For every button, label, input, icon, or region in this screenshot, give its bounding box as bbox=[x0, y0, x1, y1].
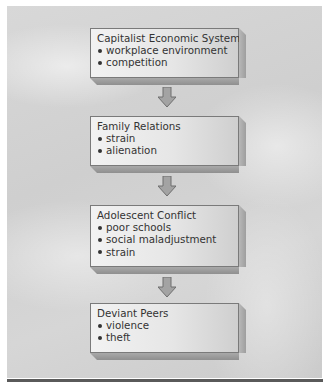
box-item: strain bbox=[97, 132, 232, 144]
bullet-icon bbox=[98, 61, 102, 65]
item-text: strain bbox=[106, 132, 135, 144]
box-side-depth bbox=[239, 205, 246, 267]
box-item: social maladjustment bbox=[97, 233, 232, 245]
item-text: theft bbox=[106, 331, 130, 343]
flow-box-adolescent-conflict: Adolescent Conflict poor schools social … bbox=[90, 205, 239, 267]
flow-box-family-relations: Family Relations strain alienation bbox=[90, 116, 239, 166]
box-title: Capitalist Economic System bbox=[97, 32, 232, 44]
box-bottom-depth bbox=[90, 353, 239, 360]
bullet-icon bbox=[98, 137, 102, 141]
item-text: strain bbox=[106, 246, 135, 258]
box-item: workplace environment bbox=[97, 44, 232, 56]
down-arrow-icon bbox=[158, 277, 176, 297]
down-arrow-icon bbox=[158, 87, 176, 107]
box-title: Deviant Peers bbox=[97, 307, 232, 319]
box-title: Family Relations bbox=[97, 120, 232, 132]
item-text: social maladjustment bbox=[106, 233, 216, 245]
item-text: competition bbox=[106, 56, 168, 68]
bottom-rule bbox=[7, 379, 323, 382]
box-title: Adolescent Conflict bbox=[97, 209, 232, 221]
box-bottom-depth bbox=[90, 78, 239, 85]
bullet-icon bbox=[98, 49, 102, 53]
box-item: theft bbox=[97, 331, 232, 343]
box-side-depth bbox=[239, 116, 246, 166]
flow-box-deviant-peers: Deviant Peers violence theft bbox=[90, 303, 239, 353]
item-text: alienation bbox=[106, 144, 157, 156]
bullet-icon bbox=[98, 324, 102, 328]
box-face: Family Relations strain alienation bbox=[90, 116, 239, 166]
bullet-icon bbox=[98, 238, 102, 242]
box-item: strain bbox=[97, 246, 232, 258]
item-text: workplace environment bbox=[106, 44, 227, 56]
flow-box-capitalist-economic-system: Capitalist Economic System workplace env… bbox=[90, 28, 239, 78]
box-face: Deviant Peers violence theft bbox=[90, 303, 239, 353]
box-side-depth bbox=[239, 28, 246, 78]
box-face: Adolescent Conflict poor schools social … bbox=[90, 205, 239, 267]
bullet-icon bbox=[98, 149, 102, 153]
box-item: violence bbox=[97, 319, 232, 331]
box-item: alienation bbox=[97, 144, 232, 156]
down-arrow-icon bbox=[158, 176, 176, 196]
bullet-icon bbox=[98, 336, 102, 340]
bullet-icon bbox=[98, 250, 102, 254]
item-text: violence bbox=[106, 319, 149, 331]
item-text: poor schools bbox=[106, 221, 171, 233]
box-item: poor schools bbox=[97, 221, 232, 233]
box-side-depth bbox=[239, 303, 246, 353]
box-item: competition bbox=[97, 56, 232, 68]
box-bottom-depth bbox=[90, 267, 239, 274]
bullet-icon bbox=[98, 226, 102, 230]
box-face: Capitalist Economic System workplace env… bbox=[90, 28, 239, 78]
box-bottom-depth bbox=[90, 166, 239, 173]
